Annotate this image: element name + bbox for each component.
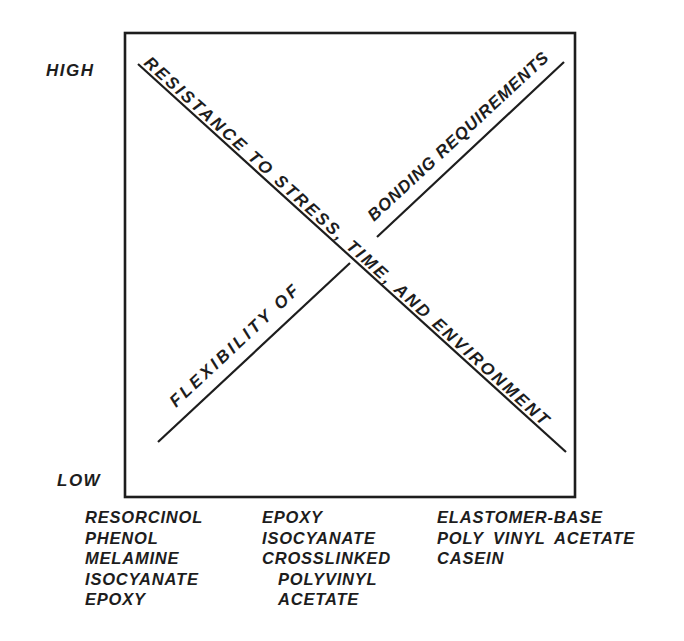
list-item: PHENOL bbox=[85, 528, 203, 549]
list-item: ACETATE bbox=[262, 589, 391, 610]
list-item: POLY VINYL ACETATE bbox=[437, 528, 635, 549]
list-item: CASEIN bbox=[437, 548, 635, 569]
flexibility-trend-line-upper bbox=[377, 62, 564, 237]
adhesive-tradeoff-diagram: HIGH LOW RESISTANCE TO STRESS, TIME, AND… bbox=[0, 0, 684, 641]
flexibility-trend-label-line1: FLEXIBILITY OF bbox=[166, 281, 303, 411]
list-item: ELASTOMER-BASE bbox=[437, 507, 635, 528]
list-item: CROSSLINKED bbox=[262, 548, 391, 569]
adhesive-list-high-resistance: RESORCINOL PHENOL MELAMINE ISOCYANATE EP… bbox=[85, 507, 203, 610]
list-item: EPOXY bbox=[85, 589, 203, 610]
list-item: ISOCYANATE bbox=[262, 528, 391, 549]
adhesive-list-high-flexibility: ELASTOMER-BASE POLY VINYL ACETATE CASEIN bbox=[437, 507, 635, 569]
list-item: MELAMINE bbox=[85, 548, 203, 569]
flexibility-trend-line-lower bbox=[158, 263, 350, 442]
adhesive-list-intermediate: EPOXY ISOCYANATE CROSSLINKED POLYVINYL A… bbox=[262, 507, 391, 610]
high-axis-label: HIGH bbox=[46, 61, 95, 80]
list-item: ISOCYANATE bbox=[85, 569, 203, 590]
list-item: POLYVINYL bbox=[262, 569, 391, 590]
adhesive-lists: RESORCINOL PHENOL MELAMINE ISOCYANATE EP… bbox=[0, 507, 684, 637]
flexibility-trend-label-line2: BONDING REQUIREMENTS bbox=[364, 48, 553, 225]
low-axis-label: LOW bbox=[57, 471, 102, 490]
list-item: RESORCINOL bbox=[85, 507, 203, 528]
list-item: EPOXY bbox=[262, 507, 391, 528]
